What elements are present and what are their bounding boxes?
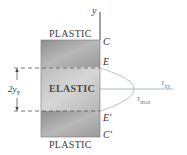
dimension-label-sub: Y (17, 90, 20, 96)
plastic-zone-bottom (41, 111, 100, 137)
parabolic-stress-curve (100, 68, 134, 111)
diagram-canvas (0, 0, 187, 155)
tau-max-label: τmax (137, 94, 151, 105)
point-E-prime-label: E' (103, 113, 111, 123)
point-E-label: E (103, 57, 109, 67)
dimension-label-main: 2y (8, 84, 17, 94)
plastic-label-bottom: PLASTIC (49, 140, 92, 150)
point-C-label: C (103, 37, 110, 47)
arrow-up-icon (15, 68, 18, 72)
tau-xy-sub: xy (164, 83, 170, 89)
tau-max-sub: max (140, 99, 150, 105)
elastic-label: ELASTIC (49, 84, 95, 94)
tau-xy-label: τxy (161, 78, 170, 89)
arrow-down-icon (15, 107, 18, 111)
dimension-label: 2yY (8, 85, 20, 96)
plastic-zone-top (41, 40, 100, 67)
y-axis-label: y (92, 6, 96, 16)
plastic-label-top: PLASTIC (49, 29, 92, 39)
point-C-prime-label: C' (103, 130, 112, 140)
